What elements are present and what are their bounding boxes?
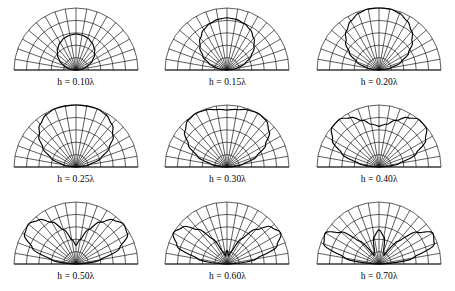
panel-caption: h = 0.60λ xyxy=(209,272,246,282)
polar-plot xyxy=(310,198,448,270)
polar-grid-spokes xyxy=(14,105,138,167)
pattern-panel-5: h = 0.40λ xyxy=(303,97,455,194)
panel-caption: h = 0.15λ xyxy=(209,78,246,88)
polar-grid-spokes xyxy=(317,105,441,167)
polar-plot xyxy=(158,198,296,270)
pattern-panel-7: h = 0.60λ xyxy=(152,194,304,291)
panel-caption: h = 0.25λ xyxy=(57,175,94,185)
antenna-pattern-figure: h = 0.10λh = 0.15λh = 0.20λh = 0.25λh = … xyxy=(0,0,455,291)
polar-plot xyxy=(158,101,296,173)
panel-caption: h = 0.70λ xyxy=(361,272,398,282)
polar-plot xyxy=(158,4,296,76)
polar-grid-spokes xyxy=(14,8,138,70)
polar-grid-spokes xyxy=(165,105,289,167)
polar-plot xyxy=(7,101,145,173)
pattern-panel-2: h = 0.20λ xyxy=(303,0,455,97)
pattern-panel-1: h = 0.15λ xyxy=(152,0,304,97)
polar-grid-spokes xyxy=(165,202,289,264)
panel-caption: h = 0.50λ xyxy=(57,272,94,282)
panel-caption: h = 0.20λ xyxy=(361,78,398,88)
polar-plot xyxy=(7,4,145,76)
panel-caption: h = 0.30λ xyxy=(209,175,246,185)
pattern-panel-0: h = 0.10λ xyxy=(0,0,152,97)
polar-grid-spokes xyxy=(317,8,441,70)
panel-caption: h = 0.40λ xyxy=(361,175,398,185)
polar-plot xyxy=(310,101,448,173)
polar-plot xyxy=(7,198,145,270)
polar-grid-spokes xyxy=(165,8,289,70)
pattern-panel-3: h = 0.25λ xyxy=(0,97,152,194)
polar-grid-spokes xyxy=(317,202,441,264)
pattern-panel-8: h = 0.70λ xyxy=(303,194,455,291)
panel-caption: h = 0.10λ xyxy=(57,78,94,88)
pattern-panel-6: h = 0.50λ xyxy=(0,194,152,291)
polar-grid-spokes xyxy=(14,202,138,264)
polar-plot xyxy=(310,4,448,76)
pattern-panel-4: h = 0.30λ xyxy=(152,97,304,194)
